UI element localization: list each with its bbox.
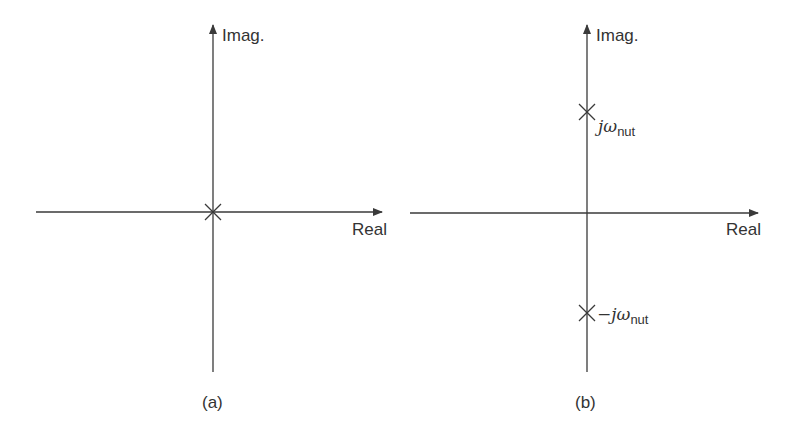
pole-zero-diagrams [0, 0, 800, 436]
real-axis-label-b: Real [726, 220, 761, 240]
pole-label-upper-sub: nut [617, 124, 635, 139]
pole-label-upper: jωnut [598, 116, 635, 139]
imag-axis-label-b: Imag. [596, 26, 639, 46]
real-axis-label-a: Real [352, 220, 387, 240]
pole-label-lower-main: −jω [597, 304, 630, 324]
panel-a [36, 25, 382, 372]
imag-axis-label-a: Imag. [222, 26, 265, 46]
panel-b [410, 25, 758, 372]
pole-label-lower: −jωnut [597, 304, 648, 327]
pole-label-upper-main: jω [598, 116, 617, 136]
caption-a: (a) [202, 393, 223, 413]
caption-b: (b) [575, 393, 596, 413]
pole-label-lower-sub: nut [630, 312, 648, 327]
